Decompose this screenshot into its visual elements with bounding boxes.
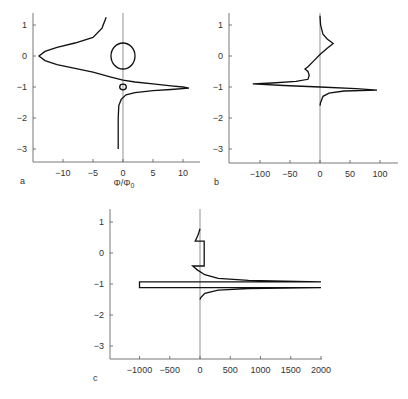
y-tick-label: −3	[17, 144, 27, 154]
x-tick-label: −10	[55, 168, 70, 178]
panel-label: b	[214, 177, 219, 187]
y-tick-label: −2	[94, 310, 104, 320]
y-tick-label: −3	[94, 341, 104, 351]
series-main-curve	[253, 16, 377, 106]
x-tick-label: 10	[178, 168, 188, 178]
x-tick-label: 2000	[311, 365, 331, 375]
y-tick-label: −1	[213, 82, 223, 92]
x-tick-label: 0	[317, 169, 322, 179]
x-tick-label: −50	[282, 169, 297, 179]
y-tick-label: 0	[22, 51, 27, 61]
panel-label: c	[93, 373, 98, 383]
y-tick-label: 1	[218, 20, 223, 30]
y-tick-label: −1	[17, 82, 27, 92]
x-tick-label: 500	[223, 365, 238, 375]
y-tick-label: −1	[94, 279, 104, 289]
series-main-curve	[140, 229, 322, 300]
panel-c: 10−1−2−3−1000−5000500100015002000c	[93, 209, 331, 383]
panel-label: a	[20, 176, 25, 186]
y-tick-label: −3	[213, 144, 223, 154]
series-main-curve	[39, 17, 189, 149]
y-tick-label: −2	[213, 113, 223, 123]
x-tick-label: 5	[150, 168, 155, 178]
y-tick-label: 1	[99, 217, 104, 227]
x-tick-label: 0	[197, 365, 202, 375]
y-tick-label: 0	[218, 51, 223, 61]
x-tick-label: −100	[250, 169, 270, 179]
figure: 10−1−2−3−10−50510aΦ/Φ010−1−2−3−100−50050…	[0, 0, 408, 399]
y-tick-label: 0	[99, 248, 104, 258]
x-tick-label: 0	[120, 168, 125, 178]
y-tick-label: −2	[17, 113, 27, 123]
x-tick-label: 50	[345, 169, 355, 179]
x-axis-label: Φ/Φ0	[114, 178, 135, 189]
x-tick-label: 1500	[281, 365, 301, 375]
panel-a: 10−1−2−3−10−50510aΦ/Φ0	[17, 13, 200, 189]
x-tick-label: −5	[88, 168, 98, 178]
y-tick-label: 1	[22, 20, 27, 30]
x-tick-label: −1000	[127, 365, 152, 375]
x-tick-label: −500	[160, 365, 180, 375]
x-tick-label: 100	[372, 169, 387, 179]
x-tick-label: 1000	[250, 365, 270, 375]
panel-b: 10−1−2−3−100−50050100b	[213, 13, 398, 187]
